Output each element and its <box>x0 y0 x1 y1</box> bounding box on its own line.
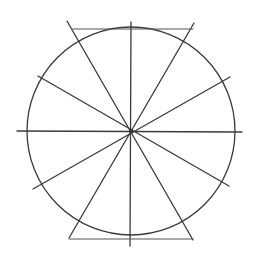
circle-sector-diagram <box>0 0 254 257</box>
center-point <box>129 129 133 133</box>
radial-lines <box>17 21 242 246</box>
